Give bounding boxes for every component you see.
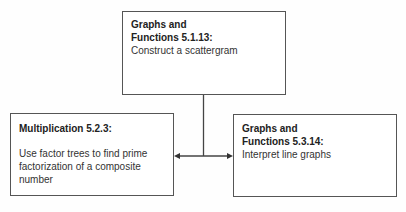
connector-lines: [0, 0, 406, 212]
arrowhead-right-icon: [227, 153, 233, 159]
arrowhead-left-icon: [174, 153, 180, 159]
